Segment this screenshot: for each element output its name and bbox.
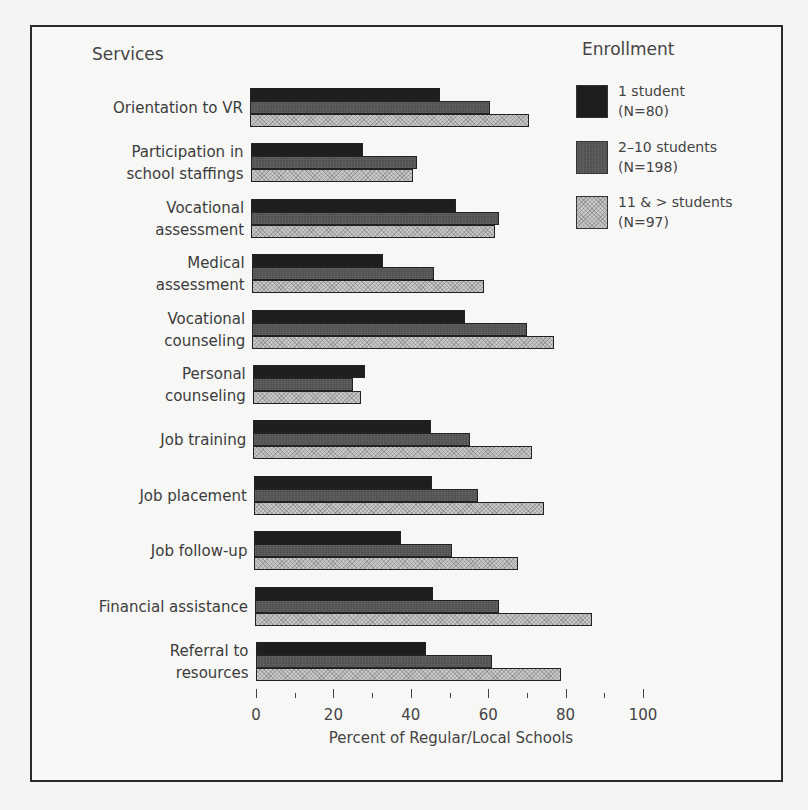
bar-series-1 xyxy=(252,254,384,267)
bar-series-3 xyxy=(250,114,529,127)
x-axis-label: Percent of Regular/Local Schools xyxy=(256,729,646,747)
tick-label: 20 xyxy=(308,706,358,724)
bar-series-2 xyxy=(256,655,492,668)
bar-series-1 xyxy=(251,199,456,212)
tick-label: 60 xyxy=(463,706,513,724)
tick-label: 0 xyxy=(231,706,281,724)
bar-series-3 xyxy=(254,557,517,570)
bar-series-2 xyxy=(252,323,527,336)
axis-tick xyxy=(604,693,605,698)
legend-swatch xyxy=(576,141,608,174)
axis-tick xyxy=(643,689,644,698)
category-label: Referral to resources xyxy=(49,640,249,684)
axis-tick xyxy=(295,693,296,698)
bar-series-3 xyxy=(256,668,562,681)
category-label: Personal counseling xyxy=(46,363,246,407)
tick-label: 40 xyxy=(386,706,436,724)
bar-series-3 xyxy=(252,336,554,349)
axis-tick xyxy=(450,693,451,698)
bar-series-1 xyxy=(256,642,426,655)
bar-series-2 xyxy=(252,267,434,280)
category-label: Job follow-up xyxy=(47,540,247,562)
category-label: Job placement xyxy=(47,485,247,507)
category-label: Medical assessment xyxy=(45,252,245,296)
bar-series-1 xyxy=(254,531,401,544)
axis-tick xyxy=(372,693,373,698)
bar-series-1 xyxy=(253,420,431,433)
axis-tick xyxy=(488,689,489,698)
axis-tick xyxy=(411,689,412,698)
bar-series-3 xyxy=(253,446,532,459)
legend-label: 11 & > students (N=97) xyxy=(618,192,733,232)
bar-series-2 xyxy=(254,544,451,557)
category-label: Vocational assessment xyxy=(44,197,244,241)
category-label: Orientation to VR xyxy=(43,97,243,119)
legend-swatch xyxy=(576,196,608,229)
bar-series-3 xyxy=(252,280,484,293)
legend-label: 2–10 students (N=198) xyxy=(618,137,717,177)
legend-title: Enrollment xyxy=(582,39,674,59)
bar-series-2 xyxy=(253,433,470,446)
axis-tick xyxy=(566,689,567,698)
services-axis-title: Services xyxy=(92,44,164,64)
bar-series-2 xyxy=(250,101,490,114)
category-label: Vocational counseling xyxy=(45,308,245,352)
axis-tick xyxy=(333,689,334,698)
legend-swatch xyxy=(576,85,608,118)
bar-series-1 xyxy=(250,88,440,101)
legend-item: 2–10 students (N=198) xyxy=(576,141,776,181)
category-label: Job training xyxy=(46,429,246,451)
bar-series-2 xyxy=(255,600,499,613)
legend-item: 1 student (N=80) xyxy=(576,85,776,125)
category-label: Financial assistance xyxy=(48,596,248,618)
bar-series-3 xyxy=(251,169,414,182)
bar-series-2 xyxy=(251,156,417,169)
bar-series-1 xyxy=(252,310,465,323)
tick-label: 80 xyxy=(541,706,591,724)
legend-label: 1 student (N=80) xyxy=(618,81,685,121)
tick-label: 100 xyxy=(618,706,668,724)
bar-series-2 xyxy=(253,378,354,391)
axis-tick xyxy=(256,689,257,698)
bar-series-3 xyxy=(253,391,361,404)
bar-series-2 xyxy=(254,489,478,502)
bar-series-3 xyxy=(254,502,544,515)
axis-tick xyxy=(527,693,528,698)
bar-series-2 xyxy=(251,212,499,225)
bar-series-1 xyxy=(255,587,433,600)
category-label: Participation in school staffings xyxy=(44,141,244,185)
bar-series-3 xyxy=(251,225,495,238)
bar-series-1 xyxy=(254,476,432,489)
legend-item: 11 & > students (N=97) xyxy=(576,196,776,236)
bar-series-1 xyxy=(251,143,363,156)
bar-series-3 xyxy=(255,613,592,626)
bar-series-1 xyxy=(253,365,365,378)
